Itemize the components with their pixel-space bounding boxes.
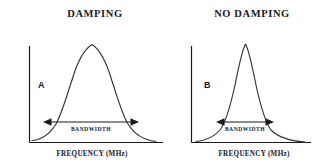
panel-b-title: NO DAMPING <box>197 8 307 19</box>
panel-b-bandwidth-label: BANDWIDTH <box>195 126 295 132</box>
resonance-curves-figure: DAMPING NO DAMPING A B BANDWIDTH BANDWID… <box>0 0 313 166</box>
panel-b-bandwidth-arrowhead-right <box>266 118 275 125</box>
plot-canvas <box>0 0 313 166</box>
panel-a-bandwidth-arrowhead-left <box>43 118 52 125</box>
panel-a-bandwidth-arrowhead-right <box>131 118 140 125</box>
panel-b-bandwidth-arrowhead-left <box>216 118 225 125</box>
panel-b-x-axis-label: FREQUENCY (MHz) <box>199 150 309 158</box>
panel-b-curve-label: B <box>204 80 211 90</box>
panel-a-x-axis-label: FREQUENCY (MHz) <box>37 150 147 158</box>
panel-a-curve-label: A <box>38 80 45 90</box>
panel-a-title: DAMPING <box>40 8 150 19</box>
panel-a-bandwidth-label: BANDWIDTH <box>41 126 141 132</box>
